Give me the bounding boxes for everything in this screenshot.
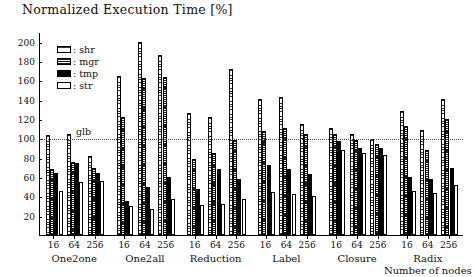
x-axis-tick-mark xyxy=(407,236,408,239)
x-axis-node-label: 16 xyxy=(118,240,129,250)
x-axis-group-label-one2one: One2one xyxy=(52,253,97,264)
bar-radix-64-str xyxy=(433,193,437,235)
x-axis-tick-mark xyxy=(166,236,167,239)
legend-item-shr: : shr xyxy=(57,44,99,55)
x-axis-group-label-reduction: Reduction xyxy=(190,253,242,264)
bar-one2one-16-str xyxy=(59,191,63,235)
bar-one2one-64-str xyxy=(79,182,83,235)
y-axis-tick-label: 20 xyxy=(24,212,35,222)
bars-layer xyxy=(40,33,463,235)
x-axis-node-label: 64 xyxy=(68,240,79,250)
legend-label-str: : str xyxy=(73,80,92,91)
glb-reference-label: glb xyxy=(76,126,91,137)
chart-title: Normalized Execution Time [%] xyxy=(22,2,233,17)
legend-label-tmp: : tmp xyxy=(73,68,98,79)
x-axis-node-label: 256 xyxy=(228,240,245,250)
x-axis-node-label: 256 xyxy=(157,240,174,250)
legend-item-tmp: : tmp xyxy=(57,68,99,79)
y-axis-tick-label: 40 xyxy=(24,192,35,202)
x-axis-title: Number of nodes xyxy=(384,265,472,276)
glb-reference-line xyxy=(40,139,463,140)
x-axis-tick-mark xyxy=(286,236,287,239)
x-axis-group-label-one2all: One2all xyxy=(125,253,164,264)
x-axis-node-label: 16 xyxy=(401,240,412,250)
y-axis-tick-label: 100 xyxy=(18,134,35,144)
x-axis-tick-mark xyxy=(428,236,429,239)
y-axis-tick-labels: 20406080100120140160180200 xyxy=(8,33,35,236)
bar-closure-256-str xyxy=(383,155,387,235)
x-axis-tick-mark xyxy=(95,236,96,239)
x-axis-tick-mark xyxy=(449,236,450,239)
x-axis-tick-mark xyxy=(145,236,146,239)
y-axis-tick-label: 200 xyxy=(18,38,35,48)
bar-closure-64-str xyxy=(362,153,366,235)
x-axis-node-label: 64 xyxy=(351,240,362,250)
bar-one2all-256-str xyxy=(171,199,175,235)
x-axis-tick-mark xyxy=(124,236,125,239)
chart-figure: Normalized Execution Time [%] 2040608010… xyxy=(0,0,475,277)
bar-radix-16-str xyxy=(412,191,416,235)
bar-label-16-str xyxy=(271,192,275,235)
x-axis-node-label: 64 xyxy=(422,240,433,250)
x-axis-tick-mark xyxy=(195,236,196,239)
legend-item-mgr: : mgr xyxy=(57,56,99,67)
x-axis-tick-mark xyxy=(266,236,267,239)
bar-one2all-16-str xyxy=(129,206,133,235)
plot-area xyxy=(39,33,463,236)
legend-swatch-mgr xyxy=(57,58,71,65)
legend-swatch-shr xyxy=(57,46,71,53)
x-axis-tick-mark xyxy=(307,236,308,239)
y-axis-tick-label: 60 xyxy=(24,173,35,183)
bar-reduction-16-str xyxy=(200,205,204,235)
x-axis-tick-mark xyxy=(336,236,337,239)
x-axis-node-label: 16 xyxy=(260,240,271,250)
chart-legend: : shr: mgr: tmp: str xyxy=(57,44,99,92)
bar-radix-256-str xyxy=(454,185,458,235)
y-axis-tick-label: 160 xyxy=(18,76,35,86)
bar-one2all-64-str xyxy=(150,209,154,235)
x-axis-tick-mark xyxy=(236,236,237,239)
x-axis-tick-mark xyxy=(216,236,217,239)
y-axis-tick-label: 80 xyxy=(24,154,35,164)
y-axis-tick-label: 180 xyxy=(18,57,35,67)
y-axis-tick-label: 140 xyxy=(18,96,35,106)
x-axis-group-label-radix: Radix xyxy=(413,253,442,264)
bar-label-64-str xyxy=(292,194,296,235)
x-axis-tick-mark xyxy=(53,236,54,239)
legend-label-shr: : shr xyxy=(73,44,95,55)
x-axis-node-label: 16 xyxy=(48,240,59,250)
x-axis-tick-mark xyxy=(378,236,379,239)
legend-label-mgr: : mgr xyxy=(73,56,99,67)
x-axis-node-label: 256 xyxy=(86,240,103,250)
bar-closure-16-str xyxy=(341,150,345,235)
x-axis-node-label: 256 xyxy=(299,240,316,250)
legend-item-str: : str xyxy=(57,80,99,91)
x-axis-node-label: 256 xyxy=(369,240,386,250)
x-axis-node-label: 16 xyxy=(331,240,342,250)
x-axis-node-label: 16 xyxy=(189,240,200,250)
x-axis-node-label: 64 xyxy=(281,240,292,250)
x-axis-tick-mark xyxy=(74,236,75,239)
x-axis-tick-mark xyxy=(357,236,358,239)
y-axis-tick-label: 120 xyxy=(18,115,35,125)
bar-label-256-str xyxy=(312,196,316,235)
legend-swatch-tmp xyxy=(57,70,71,77)
x-axis-node-label: 64 xyxy=(139,240,150,250)
x-axis-node-label: 256 xyxy=(440,240,457,250)
bar-one2one-256-str xyxy=(100,181,104,235)
legend-swatch-str xyxy=(57,82,71,89)
bar-reduction-64-str xyxy=(221,204,225,235)
x-axis-node-label: 64 xyxy=(210,240,221,250)
bar-reduction-256-str xyxy=(242,199,246,235)
x-axis-group-label-label: Label xyxy=(272,253,300,264)
x-axis-group-label-closure: Closure xyxy=(338,253,377,264)
